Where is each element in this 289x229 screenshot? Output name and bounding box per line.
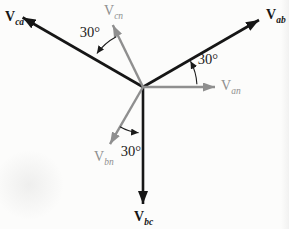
figure-canvas: VabVcaVbcVanVcnVbn30°30°30° (0, 0, 289, 229)
phasor-diagram: VabVcaVbcVanVcnVbn30°30°30° (0, 0, 289, 229)
vector-label-Vbn: Vbn (94, 149, 114, 167)
vector-label-Vca: Vca (5, 9, 24, 27)
angle-arc-1 (191, 61, 197, 84)
angle-label-0: 30° (80, 24, 101, 40)
angle-label-2: 30° (121, 143, 142, 159)
angle-arc-2 (120, 127, 139, 133)
vector-label-Vbc: Vbc (134, 209, 154, 227)
vector-label-Vcn: Vcn (104, 3, 123, 21)
vector-label-Van: Van (221, 78, 241, 96)
angle-label-1: 30° (198, 51, 219, 67)
vector-label-Vab: Vab (266, 7, 286, 25)
vector-Vbn (110, 87, 143, 144)
